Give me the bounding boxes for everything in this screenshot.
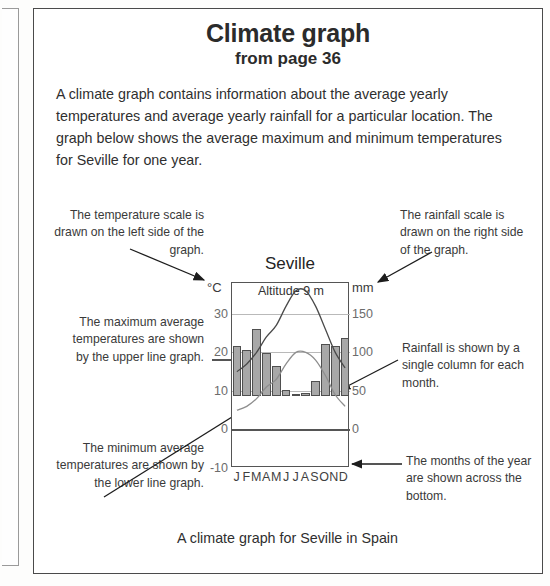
month-label: N: [329, 470, 338, 484]
min-temperature-line: [237, 351, 345, 410]
figure-caption: A climate graph for Seville in Spain: [34, 530, 541, 546]
month-label: D: [338, 470, 347, 484]
right-axis-tick: 50: [352, 384, 366, 398]
left-axis-tick: 20: [214, 345, 228, 359]
month-label: J: [281, 470, 290, 484]
month-label: F: [241, 470, 250, 484]
climate-graph-figure: The temperature scale is drawn on the le…: [34, 192, 541, 522]
left-axis-tick: -10: [210, 461, 228, 475]
left-axis-unit-label: °C: [207, 280, 222, 295]
plot-inner: [232, 283, 350, 435]
right-axis-unit-label: mm: [352, 280, 374, 295]
max-temperature-line: [237, 289, 345, 372]
month-label: A: [261, 470, 270, 484]
adjacent-page-edge: [2, 8, 19, 566]
climate-chart: Seville °C mm Altitude 9 m 3020100-10150…: [199, 254, 381, 484]
month-label: A: [300, 470, 309, 484]
right-axis-tick: 0: [352, 422, 359, 436]
month-axis-labels: JFMAMJJASOND: [231, 470, 349, 484]
month-label: M: [271, 470, 281, 484]
left-axis-tick: 10: [214, 384, 228, 398]
month-label: J: [291, 470, 300, 484]
month-label: S: [310, 470, 319, 484]
plot-area: Altitude 9 m 3020100-10150100500: [231, 282, 349, 467]
title-block: Climate graph from page 36: [34, 9, 542, 69]
right-axis-tick: 150: [352, 307, 373, 321]
month-label: M: [251, 470, 261, 484]
page-title: Climate graph: [34, 19, 542, 48]
left-axis-tick: 30: [214, 307, 228, 321]
worksheet-page: Climate graph from page 36 A climate gra…: [33, 8, 543, 574]
page-subtitle: from page 36: [34, 49, 542, 69]
temperature-lines: [232, 283, 350, 468]
chart-title: Seville: [199, 254, 381, 274]
intro-paragraph: A climate graph contains information abo…: [56, 83, 520, 172]
right-axis-tick: 100: [352, 345, 373, 359]
month-label: J: [232, 470, 241, 484]
month-label: O: [319, 470, 329, 484]
left-axis-tick: 0: [221, 422, 228, 436]
